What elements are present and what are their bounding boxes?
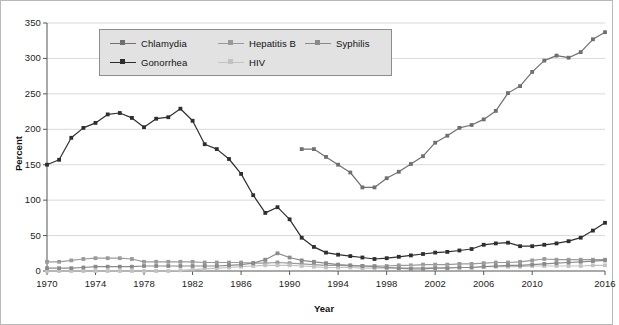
x-axis-tick-label: 1982: [179, 278, 207, 289]
legend-label-syphilis: Syphilis: [336, 38, 370, 49]
series-gonorrhea: [45, 107, 607, 261]
x-axis-title: Year: [314, 303, 334, 314]
y-axis-tick-label: 150: [9, 159, 41, 170]
x-axis-tick-label: 1986: [227, 278, 255, 289]
legend-item-hiv[interactable]: HIV: [218, 55, 265, 69]
x-axis-tick-label: 2010: [518, 278, 546, 289]
y-axis-tick-label: 100: [9, 194, 41, 205]
x-axis-tick-label: 1978: [130, 278, 158, 289]
x-axis-tick-label: 1974: [82, 278, 110, 289]
legend-swatch-gonorrhea: [110, 58, 136, 67]
y-axis-tick-label: 200: [9, 123, 41, 134]
x-axis-tick-label: 1998: [373, 278, 401, 289]
x-axis-tick-label: 1990: [276, 278, 304, 289]
legend-label-gonorrhea: Gonorrhea: [141, 57, 187, 68]
y-axis-tick-label: 300: [9, 52, 41, 63]
x-axis-tick-label: 2016: [591, 278, 619, 289]
legend-item-syphilis[interactable]: Syphilis: [305, 36, 370, 50]
y-axis-tick-label: 350: [9, 17, 41, 28]
legend-swatch-syphilis: [305, 39, 331, 48]
x-axis-tick-label: 1994: [324, 278, 352, 289]
legend-item-hepatitis-b[interactable]: Hepatitis B: [218, 36, 296, 50]
legend-item-gonorrhea[interactable]: Gonorrhea: [110, 55, 187, 69]
y-axis-tick-label: 0: [9, 265, 41, 276]
legend-item-chlamydia[interactable]: Chlamydia: [110, 36, 187, 50]
legend-label-hiv: HIV: [249, 57, 265, 68]
x-axis-tick-label: 2006: [470, 278, 498, 289]
legend-swatch-hepatitis-b: [218, 39, 244, 48]
y-axis-tick-label: 50: [9, 230, 41, 241]
legend-label-hepatitis-b: Hepatitis B: [249, 38, 296, 49]
legend-label-chlamydia: Chlamydia: [141, 38, 187, 49]
legend-swatch-chlamydia: [110, 39, 136, 48]
chart-legend: Chlamydia Gonorrhea Hepatitis B HIV: [99, 29, 392, 76]
x-axis-tick-label: 1970: [33, 278, 61, 289]
x-axis-tick-label: 2002: [421, 278, 449, 289]
legend-swatch-hiv: [218, 58, 244, 67]
y-axis-tick-label: 250: [9, 88, 41, 99]
